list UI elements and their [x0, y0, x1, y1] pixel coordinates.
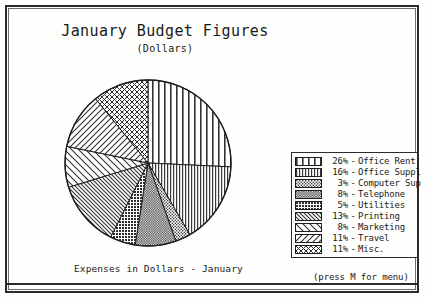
menu-hint: (press M for menu): [313, 272, 409, 282]
legend-label: 13%-Printing: [326, 211, 400, 221]
legend-label: 5%-Utilities: [326, 200, 405, 210]
legend-percent: 13%: [326, 211, 348, 221]
pie-slice: [148, 80, 231, 167]
legend-dash: -: [348, 211, 358, 221]
legend-category-name: Printing: [358, 211, 400, 221]
legend-percent: 3%: [326, 178, 348, 188]
legend-row: 26%-Office Rent: [295, 156, 415, 166]
legend-percent: 5%: [326, 200, 348, 210]
chart-title: January Budget Figures: [40, 22, 290, 40]
legend-row: 8%-Telephone: [295, 189, 415, 199]
legend-percent: 11%: [326, 233, 348, 243]
legend-dash: -: [348, 200, 358, 210]
legend-label: 11%-Travel: [326, 233, 389, 243]
legend-percent: 26%: [326, 156, 348, 166]
legend-row: 11%-Travel: [295, 233, 415, 243]
legend-label: 16%-Office Suppl: [326, 167, 421, 177]
legend-dash: -: [348, 167, 358, 177]
legend-row: 5%-Utilities: [295, 200, 415, 210]
legend-label: 8%-Marketing: [326, 222, 405, 232]
legend-row: 11%-Misc.: [295, 244, 415, 254]
caption-divider: [7, 283, 419, 285]
legend-row: 3%-Computer Sup: [295, 178, 415, 188]
legend-dash: -: [348, 233, 358, 243]
legend-label: 8%-Telephone: [326, 189, 405, 199]
legend-swatch-vertical-lines-dense: [295, 168, 322, 177]
legend-category-name: Computer Sup: [358, 178, 421, 188]
legend-dash: -: [348, 222, 358, 232]
legend-dash: -: [348, 244, 358, 254]
legend-label: 11%-Misc.: [326, 244, 384, 254]
legend-percent: 16%: [326, 167, 348, 177]
legend-swatch-vertical-lines-wide: [295, 157, 322, 166]
legend-dash: -: [348, 178, 358, 188]
legend-row: 8%-Marketing: [295, 222, 415, 232]
legend-swatch-stipple-dots: [295, 179, 322, 188]
legend-label: 3%-Computer Sup: [326, 178, 421, 188]
legend-dash: -: [348, 189, 358, 199]
legend-category-name: Misc.: [358, 244, 384, 254]
chart-subtitle: (Dollars): [40, 43, 290, 54]
legend-row: 16%-Office Suppl: [295, 167, 415, 177]
pie-chart: [62, 77, 234, 249]
legend-swatch-crosshatch-x: [295, 245, 322, 254]
legend-label: 26%-Office Rent: [326, 156, 415, 166]
legend-box: 26%-Office Rent16%-Office Suppl3%-Comput…: [291, 152, 418, 258]
legend-swatch-backslash-wide: [295, 223, 322, 232]
legend-swatch-forwardslash: [295, 234, 322, 243]
legend-swatch-stipple-dense: [295, 190, 322, 199]
chart-title-block: January Budget Figures (Dollars): [40, 22, 290, 54]
legend-category-name: Travel: [358, 233, 389, 243]
legend-dash: -: [348, 156, 358, 166]
pie-chart-svg: [62, 77, 234, 249]
pie-slice-group: [65, 80, 231, 246]
legend-category-name: Marketing: [358, 222, 405, 232]
legend-category-name: Utilities: [358, 200, 405, 210]
legend-percent: 11%: [326, 244, 348, 254]
legend-swatch-crosshatch-dots: [295, 201, 322, 210]
legend-category-name: Telephone: [358, 189, 405, 199]
legend-swatch-backslash-dense: [295, 212, 322, 221]
legend-category-name: Office Suppl: [358, 167, 421, 177]
legend-row: 13%-Printing: [295, 211, 415, 221]
legend-percent: 8%: [326, 189, 348, 199]
chart-caption: Expenses in Dollars - January: [74, 263, 243, 274]
legend-percent: 8%: [326, 222, 348, 232]
app-root: January Budget Figures (Dollars): [0, 0, 426, 300]
legend-category-name: Office Rent: [358, 156, 415, 166]
